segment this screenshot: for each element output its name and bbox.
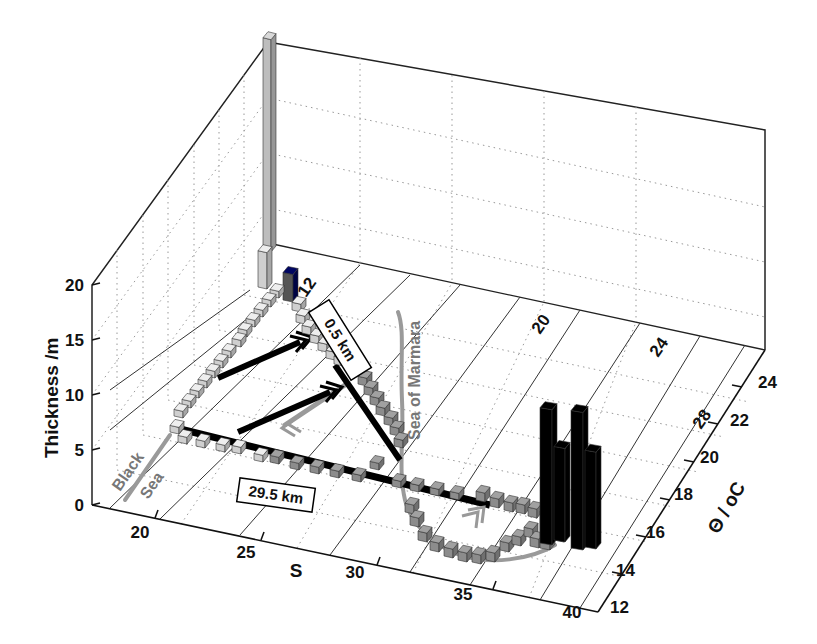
z-tick-20: 20 xyxy=(65,276,84,295)
y-tick-18: 18 xyxy=(674,485,693,504)
z-axis-title: Thickness /m xyxy=(41,338,62,458)
bar-face xyxy=(571,411,583,551)
x-axis-title: S xyxy=(290,560,303,581)
x-tick-35: 35 xyxy=(454,585,473,604)
marmara-label: Sea of Marmara xyxy=(406,321,423,440)
y-tick-14: 14 xyxy=(616,561,635,580)
y-tick-16: 16 xyxy=(646,523,665,542)
bar-face xyxy=(263,38,271,252)
y-tick-24: 24 xyxy=(758,373,777,392)
x-tick-30: 30 xyxy=(346,563,365,582)
bar-face xyxy=(565,443,570,543)
z-tick-10: 10 xyxy=(65,386,84,405)
y-tick-22: 22 xyxy=(730,411,749,430)
x-tick-20: 20 xyxy=(131,523,150,542)
x-tick-40: 40 xyxy=(563,603,582,622)
bar-face xyxy=(271,34,276,252)
box-29-5-km: 29.5 km xyxy=(237,478,316,512)
bar-face xyxy=(540,408,552,545)
x-tick-25: 25 xyxy=(237,543,256,562)
ts-volume-3d-plot: 0.5 km 29.5 km Black Sea Sea of Marmara … xyxy=(0,0,817,644)
y-axis-title: Θ / oC xyxy=(703,478,749,537)
bar-face xyxy=(554,447,565,543)
histogram-bars xyxy=(170,32,601,564)
contour-20: 20 xyxy=(528,311,554,337)
y-tick-20: 20 xyxy=(700,448,719,467)
y-tick-12: 12 xyxy=(610,598,629,617)
z-tick-0: 0 xyxy=(75,496,84,515)
z-tick-15: 15 xyxy=(65,331,84,350)
bar-face xyxy=(283,273,293,303)
z-tick-5: 5 xyxy=(75,441,84,460)
bar-face xyxy=(585,450,596,549)
bar-face xyxy=(258,251,267,289)
bar-face xyxy=(596,446,601,549)
contour-24: 24 xyxy=(646,333,673,360)
bar-face xyxy=(267,247,272,289)
front-axes xyxy=(92,283,765,612)
